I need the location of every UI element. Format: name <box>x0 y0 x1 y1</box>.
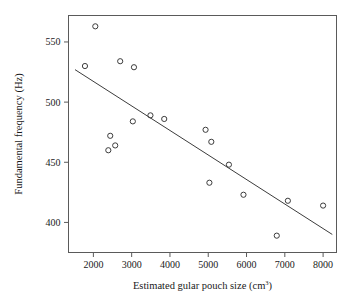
x-axis-title: Estimated gular pouch size (cm3) <box>133 279 273 292</box>
scatter-plot-figure: 2000300040005000600070008000 40045050055… <box>0 0 354 302</box>
data-points-group <box>82 24 325 239</box>
y-tick-labels-group: 400450500550 <box>46 36 61 227</box>
data-point <box>148 113 153 118</box>
data-point <box>113 143 118 148</box>
x-tick-label: 2000 <box>83 259 103 270</box>
y-tick-label: 450 <box>46 157 61 168</box>
tick-marks-group <box>64 42 323 257</box>
x-tick-label: 5000 <box>198 259 218 270</box>
x-tick-label: 4000 <box>160 259 180 270</box>
data-point <box>118 59 123 64</box>
x-tick-label: 6000 <box>237 259 257 270</box>
data-point <box>241 192 246 197</box>
y-tick-label: 500 <box>46 97 61 108</box>
plot-canvas: 2000300040005000600070008000 40045050055… <box>0 0 354 302</box>
data-point <box>93 24 98 29</box>
data-point <box>274 233 279 238</box>
x-tick-label: 8000 <box>313 259 333 270</box>
data-point <box>106 148 111 153</box>
data-point <box>82 63 87 68</box>
data-point <box>321 203 326 208</box>
x-tick-label: 7000 <box>275 259 295 270</box>
data-point <box>203 127 208 132</box>
data-point <box>226 162 231 167</box>
data-point <box>130 119 135 124</box>
y-axis-title: Fundamental frequency (Hz) <box>13 73 25 195</box>
y-tick-label: 400 <box>46 217 61 228</box>
data-point <box>285 198 290 203</box>
x-tick-label: 3000 <box>122 259 142 270</box>
x-tick-labels-group: 2000300040005000600070008000 <box>83 259 333 270</box>
regression-line <box>75 70 332 235</box>
data-point <box>207 180 212 185</box>
data-point <box>162 116 167 121</box>
data-point <box>108 133 113 138</box>
data-point <box>131 65 136 70</box>
data-point <box>209 139 214 144</box>
y-tick-label: 550 <box>46 36 61 47</box>
